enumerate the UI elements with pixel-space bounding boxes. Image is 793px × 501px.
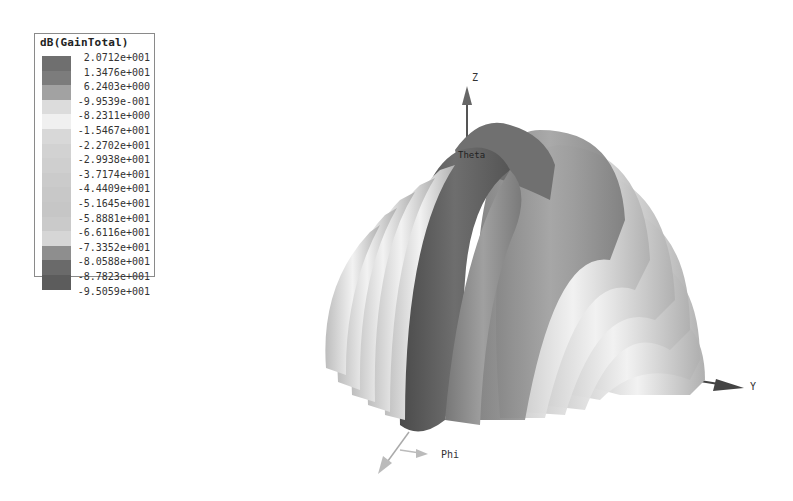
z-axis-arrow-icon bbox=[462, 86, 472, 105]
legend-value: 6.2403e+000 bbox=[78, 80, 150, 95]
legend-value: -2.9938e+001 bbox=[78, 153, 150, 168]
legend-swatch bbox=[42, 71, 71, 86]
legend-value: -8.0588e+001 bbox=[78, 255, 150, 270]
legend-value: 1.3476e+001 bbox=[78, 66, 150, 81]
legend-values: 2.0712e+0011.3476e+0016.2403e+000-9.9539… bbox=[78, 51, 150, 299]
legend-value: 2.0712e+001 bbox=[78, 51, 150, 66]
legend-swatch bbox=[42, 275, 71, 290]
y-axis-label: Y bbox=[750, 381, 756, 392]
legend-swatch bbox=[42, 187, 71, 202]
color-legend: dB(GainTotal) 2.0712e+0011.3476e+0016.24… bbox=[34, 33, 155, 277]
legend-swatch bbox=[42, 114, 71, 129]
legend-swatch bbox=[42, 202, 71, 217]
legend-value: -6.6116e+001 bbox=[78, 226, 150, 241]
legend-title: dB(GainTotal) bbox=[40, 36, 129, 49]
x-axis bbox=[385, 432, 409, 465]
legend-value: -9.5059e+001 bbox=[78, 285, 150, 300]
legend-value: -5.1645e+001 bbox=[78, 197, 150, 212]
legend-value: -7.3352e+001 bbox=[78, 241, 150, 256]
legend-swatch bbox=[42, 100, 71, 115]
legend-value: -4.4409e+001 bbox=[78, 182, 150, 197]
legend-value: -3.7174e+001 bbox=[78, 168, 150, 183]
theta-label: Theta bbox=[458, 150, 485, 160]
legend-value: -1.5467e+001 bbox=[78, 124, 150, 139]
legend-swatches bbox=[42, 56, 71, 290]
z-axis-label: Z bbox=[472, 72, 478, 83]
legend-value: -9.9539e-001 bbox=[78, 95, 150, 110]
legend-swatch bbox=[42, 129, 71, 144]
legend-swatch bbox=[42, 217, 71, 232]
legend-swatch bbox=[42, 246, 71, 261]
legend-value: -5.8881e+001 bbox=[78, 212, 150, 227]
legend-swatch bbox=[42, 231, 71, 246]
3d-radiation-plot[interactable]: Theta Z Y Phi bbox=[300, 60, 793, 501]
legend-swatch bbox=[42, 85, 71, 100]
y-axis-arrow-icon bbox=[713, 379, 744, 391]
legend-swatch bbox=[42, 144, 71, 159]
phi-arrow-icon bbox=[416, 449, 428, 458]
legend-swatch bbox=[42, 158, 71, 173]
legend-value: -8.2311e+000 bbox=[78, 109, 150, 124]
phi-axis-label: Phi bbox=[441, 449, 459, 460]
legend-value: -2.2702e+001 bbox=[78, 139, 150, 154]
legend-swatch bbox=[42, 260, 71, 275]
legend-swatch bbox=[42, 56, 71, 71]
pattern-svg: Theta bbox=[300, 60, 793, 501]
legend-value: -8.7823e+001 bbox=[78, 270, 150, 285]
legend-swatch bbox=[42, 173, 71, 188]
